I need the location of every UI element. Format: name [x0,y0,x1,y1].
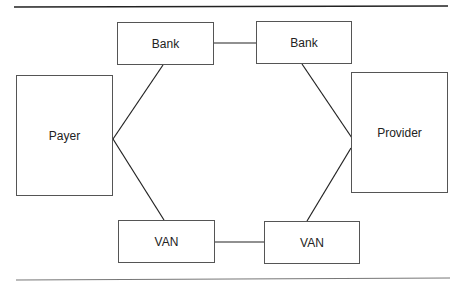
node-payer: Payer [16,75,113,196]
node-van-left: VAN [118,220,215,263]
node-label: Bank [152,37,179,51]
edge-payer-van [113,139,164,220]
node-bank-right: Bank [256,21,352,64]
node-van-right: VAN [264,221,360,264]
node-label: Payer [49,129,80,143]
node-label: VAN [300,236,324,250]
node-bank-left: Bank [117,22,214,65]
edge-van-provider [307,148,351,221]
top-rule [14,6,448,7]
node-label: Bank [290,36,317,50]
node-label: Provider [377,126,422,140]
edge-bank-provider [302,64,352,138]
bottom-rule [16,278,450,280]
node-label: VAN [155,235,179,249]
edge-payer-bank [113,65,163,139]
node-provider: Provider [351,72,448,193]
